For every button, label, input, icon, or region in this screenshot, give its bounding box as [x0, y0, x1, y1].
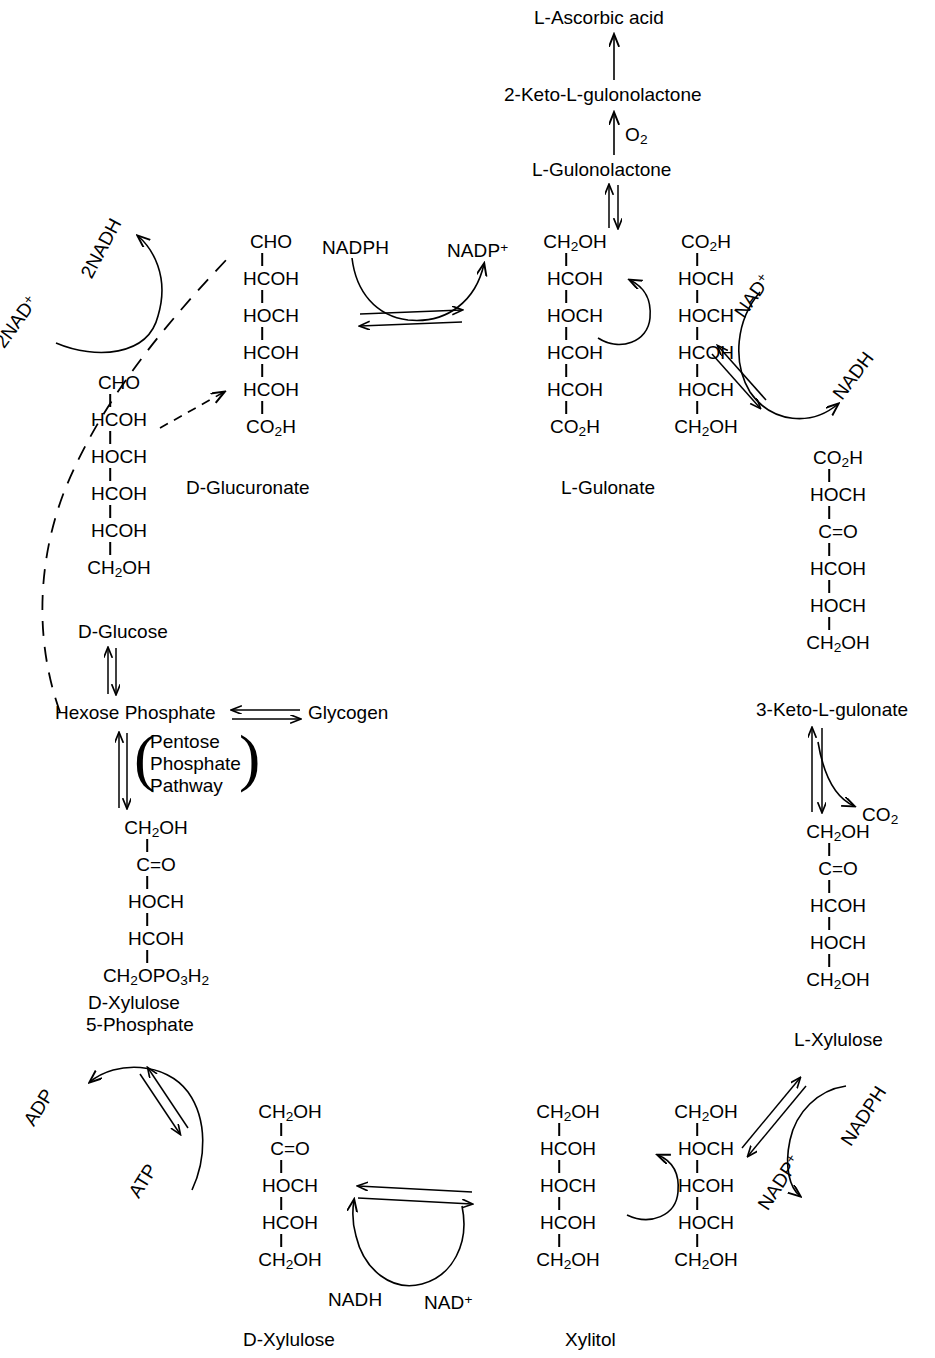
- struct-row: HCOH: [76, 484, 162, 503]
- struct-row: HOCH: [661, 269, 751, 288]
- struct-row: HOCH: [661, 306, 751, 325]
- bond: [245, 1121, 335, 1139]
- struct-row: C=O: [793, 522, 883, 541]
- struct-row: CH2OH: [245, 1250, 335, 1269]
- bond: [76, 429, 162, 447]
- label-d-glucose: D-Glucose: [78, 622, 168, 641]
- struct-row: HOCH: [661, 1139, 751, 1158]
- bond: [228, 288, 314, 306]
- right-paren: ): [239, 726, 260, 790]
- cofactor-nadph-top: NADPH: [322, 238, 389, 257]
- cofactor-nadp-plus-top: NADP+: [447, 238, 508, 260]
- struct-row: HOCH: [245, 1176, 335, 1195]
- bond: [661, 288, 751, 306]
- bond: [661, 1121, 751, 1139]
- bond: [530, 251, 620, 269]
- bond: [76, 466, 162, 484]
- struct-row: HOCH: [523, 1176, 613, 1195]
- struct-row: HCOH: [793, 896, 883, 915]
- bond: [793, 467, 883, 485]
- reaction-arrow-xylulose-reverse: [748, 1086, 806, 1156]
- bond: [228, 362, 314, 380]
- struct-row: C=O: [245, 1139, 335, 1158]
- bond: [76, 503, 162, 521]
- struct-row: CH2OH: [661, 1102, 751, 1121]
- structure-d-glucuronate: CHO HCOH HOCH HCOH HCOH CO2H: [228, 232, 314, 436]
- struct-row: CO2H: [793, 448, 883, 467]
- bond: [793, 841, 883, 859]
- struct-row: HOCH: [228, 306, 314, 325]
- structure-l-gulonate-left: CH2OH HCOH HOCH HCOH HCOH CO2H: [530, 232, 620, 436]
- bond: [86, 837, 226, 855]
- reaction-arrow-phosphorylation-up: [148, 1068, 188, 1128]
- struct-row: CO2H: [228, 417, 314, 436]
- bond: [793, 615, 883, 633]
- struct-row: CHO: [228, 232, 314, 251]
- arrow-layer: [0, 0, 935, 1358]
- bond: [228, 251, 314, 269]
- label-l-gulonate: L-Gulonate: [561, 478, 655, 497]
- label-d-glucuronate: D-Glucuronate: [186, 478, 310, 497]
- struct-row: CH2OH: [793, 633, 883, 652]
- bond: [661, 1195, 751, 1213]
- cofactor-nadph-bottom-right: NADPH: [837, 1082, 892, 1150]
- struct-row: CH2OH: [523, 1250, 613, 1269]
- struct-row: HOCH: [86, 892, 226, 911]
- struct-row: HOCH: [76, 447, 162, 466]
- cofactor-2nadh: 2NADH: [77, 215, 127, 282]
- bond: [86, 911, 226, 929]
- struct-row: HOCH: [530, 306, 620, 325]
- struct-row: HCOH: [86, 929, 226, 948]
- bond: [530, 362, 620, 380]
- bond: [661, 399, 751, 417]
- curve-nad-to-nadh-bottom: [353, 1200, 464, 1286]
- structure-3-keto-l-gulonate: CO2H HOCH C=O HCOH HOCH CH2OH: [793, 448, 883, 652]
- bond: [86, 874, 226, 892]
- bond: [793, 878, 883, 896]
- struct-row: HOCH: [793, 596, 883, 615]
- struct-row: C=O: [793, 859, 883, 878]
- reaction-arrow-phosphorylation-down: [140, 1074, 180, 1134]
- bond: [76, 540, 162, 558]
- struct-row: CH2OH: [530, 232, 620, 251]
- bond: [793, 504, 883, 522]
- struct-row: CH2OH: [661, 417, 751, 436]
- dashed-arrow-glucose-to-glucuronate: [160, 392, 224, 428]
- bond: [523, 1121, 613, 1139]
- struct-row: HCOH: [530, 380, 620, 399]
- struct-row: CO2H: [530, 417, 620, 436]
- reaction-arrow-xylitol-forward: [358, 1198, 472, 1204]
- cofactor-co2-right: CO2: [862, 805, 898, 829]
- bond: [228, 399, 314, 417]
- struct-row: HCOH: [793, 559, 883, 578]
- bond: [793, 578, 883, 596]
- cofactor-nadh-bottom: NADH: [328, 1290, 382, 1309]
- bond: [661, 325, 751, 343]
- cofactor-nadh-right: NADH: [828, 348, 878, 404]
- curve-co2-release: [818, 742, 854, 806]
- bond: [523, 1158, 613, 1176]
- cofactor-o2: O2: [625, 125, 648, 149]
- struct-row: HCOH: [523, 1213, 613, 1232]
- bond: [661, 1158, 751, 1176]
- struct-row: CO2H: [661, 232, 751, 251]
- struct-row: HCOH: [245, 1213, 335, 1232]
- struct-row: HCOH: [661, 343, 751, 362]
- node-hexose-phosphate: Hexose Phosphate: [55, 703, 216, 722]
- bond: [228, 325, 314, 343]
- bond: [661, 362, 751, 380]
- struct-row: HCOH: [76, 521, 162, 540]
- struct-row: HOCH: [661, 1213, 751, 1232]
- label-xylitol: Xylitol: [565, 1330, 616, 1349]
- bond: [245, 1232, 335, 1250]
- bond: [245, 1158, 335, 1176]
- label-d-xylulose: D-Xylulose: [243, 1330, 335, 1349]
- struct-row: CH2OH: [76, 558, 162, 577]
- structure-l-xylulose: CH2OH C=O HCOH HOCH CH2OH: [793, 822, 883, 989]
- struct-row: HCOH: [228, 269, 314, 288]
- struct-row: HCOH: [228, 380, 314, 399]
- label-3-keto-l-gulonate: 3-Keto-L-gulonate: [756, 700, 908, 719]
- reaction-arrow-forward: [360, 310, 462, 314]
- pathway-line-3: Pathway: [150, 775, 223, 796]
- struct-row: CH2OPO3H2: [86, 966, 226, 985]
